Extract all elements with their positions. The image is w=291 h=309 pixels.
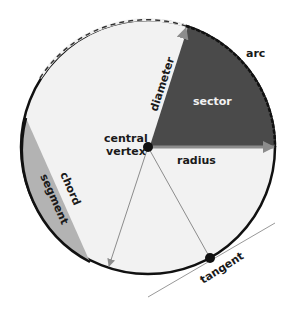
central-vertex-label-line1: central xyxy=(104,132,148,145)
tangent-point xyxy=(205,253,215,263)
arc-label: arc xyxy=(246,47,265,60)
central-vertex-label-line2: vertex xyxy=(106,145,146,158)
radius-label: radius xyxy=(177,154,216,167)
sector-label: sector xyxy=(193,95,232,108)
circle-diagram: arc sector diameter central vertex radiu… xyxy=(0,0,291,309)
